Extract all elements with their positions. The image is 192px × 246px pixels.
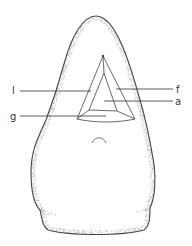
cingulum-arch xyxy=(92,138,106,143)
label-l: l xyxy=(12,85,15,96)
label-a: a xyxy=(175,96,181,107)
tooth-shading xyxy=(31,16,155,235)
leader-lines xyxy=(20,89,173,116)
tooth-outline xyxy=(31,16,155,235)
tooth-diagram: l f a g xyxy=(0,0,192,246)
label-f: f xyxy=(176,84,180,95)
label-g: g xyxy=(10,111,16,122)
